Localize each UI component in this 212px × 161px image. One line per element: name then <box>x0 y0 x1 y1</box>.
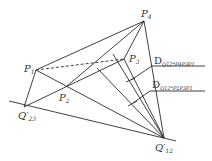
ray-p1-q12 <box>36 70 164 138</box>
annotation-d1: DQ12*P4P3P1 <box>154 55 195 67</box>
diagram-canvas: P4 P1 P3 P2 Q′23 Q′12 DQ12*P4P3P1 DQ12*P… <box>0 0 212 161</box>
edge-p1-q23 <box>24 70 36 107</box>
label-q12: Q′12 <box>155 142 173 154</box>
label-q23: Q′23 <box>18 110 36 122</box>
label-p2: P2 <box>58 92 70 104</box>
label-p4: P4 <box>140 8 152 20</box>
edge-p1-p4 <box>36 21 144 70</box>
label-p1: P1 <box>23 63 35 75</box>
line-q23-p3 <box>24 59 124 107</box>
ray-b-q12 <box>113 54 164 138</box>
leader-d1 <box>131 66 205 80</box>
annotation-d2: DQ12*P2P3P1 <box>152 79 193 91</box>
label-p3: P3 <box>128 53 140 65</box>
leader-d2 <box>133 91 205 103</box>
